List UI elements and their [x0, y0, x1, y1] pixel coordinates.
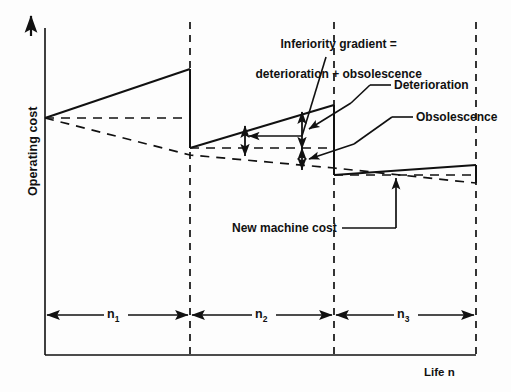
- y-axis-title: Operating cost: [26, 106, 42, 196]
- cost-rise-cycle3: [334, 165, 476, 175]
- dimension-label-n1-sub: 1: [115, 314, 120, 324]
- inferiority-gradient-label-line1: Inferiority gradient =: [280, 37, 396, 51]
- dimension-label-n1: n1: [107, 307, 119, 324]
- deterioration-label: Deterioration: [394, 78, 469, 93]
- obsolescence-label: Obsolescence: [416, 110, 497, 125]
- dimension-label-n2: n2: [255, 307, 267, 324]
- dimension-label-n1-base: n: [107, 307, 115, 321]
- new-machine-cost-label: New machine cost: [232, 221, 337, 236]
- dimension-label-n2-base: n: [255, 307, 263, 321]
- obsolescence-leader-diagonal: [309, 144, 354, 159]
- dimension-label-n3-sub: 3: [405, 314, 410, 324]
- obsolescence-leader-diagonal2: [354, 117, 392, 144]
- dimension-label-n3: n3: [397, 307, 409, 324]
- x-axis-title: Life n: [424, 365, 455, 379]
- dimension-label-n3-base: n: [397, 307, 405, 321]
- obsolescence-annotation: [302, 117, 413, 170]
- dimension-label-n2-sub: 2: [263, 314, 268, 324]
- new-machine-cost-annotation: [342, 178, 396, 228]
- operating-cost-life-diagram: Operating cost Life n Inferiority gradie…: [0, 0, 511, 392]
- cost-rise-cycle1: [45, 69, 190, 118]
